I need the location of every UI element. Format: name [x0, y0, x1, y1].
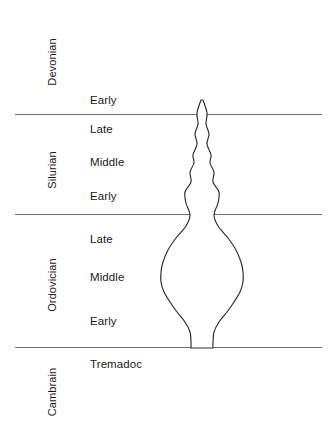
divider-devonian-silurian [15, 114, 322, 115]
epoch-label-ordovician-middle: Middle [90, 271, 124, 283]
divider-silurian-ordovician [15, 214, 322, 215]
epoch-label-silurian-middle: Middle [90, 156, 124, 168]
period-label-cambrain-text: Cambrain [46, 368, 58, 417]
epoch-label-cambrain-tremadoc: Tremadoc [90, 358, 142, 370]
stratigraphic-range-figure: Devonian Silurian Ordovician Cambrain Ea… [0, 0, 333, 440]
period-label-devonian-text: Devonian [46, 38, 58, 85]
epoch-label-devonian-early: Early [90, 94, 117, 106]
epoch-label-ordovician-early: Early [90, 315, 117, 327]
divider-ordovician-cambrain [15, 347, 322, 348]
period-label-silurian-text: Silurian [46, 151, 58, 189]
period-label-ordovician-text: Ordovician [46, 258, 58, 312]
divider-group [15, 14, 322, 427]
epoch-label-silurian-late: Late [90, 123, 113, 135]
epoch-label-ordovician-late: Late [90, 233, 113, 245]
epoch-label-silurian-early: Early [90, 190, 117, 202]
